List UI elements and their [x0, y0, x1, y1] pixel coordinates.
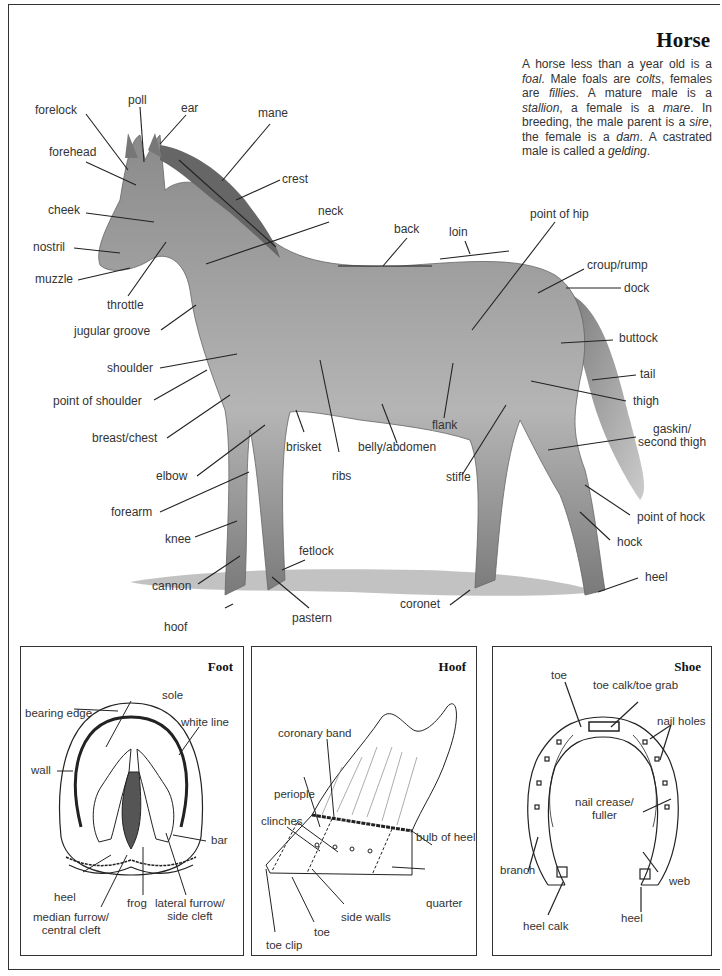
shoe-panel: Shoe to	[492, 646, 712, 956]
label-hock: hock	[617, 535, 642, 549]
label-dock: dock	[624, 281, 649, 295]
shoe-label-toe: toe	[551, 669, 567, 682]
label-breast-chest: breast/chest	[92, 431, 157, 445]
label-cannon: cannon	[152, 579, 191, 593]
label-forearm: forearm	[111, 505, 152, 519]
label-point-of-hip: point of hip	[530, 207, 589, 221]
label-thigh: thigh	[633, 394, 659, 408]
label-flank: flank	[432, 418, 457, 432]
label-forelock: forelock	[35, 103, 77, 117]
label-neck: neck	[318, 204, 343, 218]
foot-label-bearing-edge: bearing edge	[25, 707, 92, 720]
hoof-label-periople: periople	[274, 788, 315, 801]
label-nostril: nostril	[33, 240, 65, 254]
shoe-label-toe-calk: toe calk/toe grab	[593, 679, 678, 692]
label-brisket: brisket	[286, 440, 321, 454]
label-ribs: ribs	[332, 469, 351, 483]
label-jugular-groove: jugular groove	[74, 324, 150, 338]
horse-illustration	[0, 0, 722, 640]
label-gaskin: gaskin/ second thigh	[638, 423, 706, 449]
label-shoulder: shoulder	[107, 361, 153, 375]
hoof-label-coronary-band: coronary band	[278, 727, 352, 740]
label-loin: loin	[449, 225, 468, 239]
hoof-label-quarter: quarter	[426, 897, 462, 910]
label-crest: crest	[282, 172, 308, 186]
label-ear: ear	[181, 101, 198, 115]
hoof-panel: Hoof coronary band periople clinches	[251, 646, 477, 956]
label-tail: tail	[640, 367, 655, 381]
label-point-of-shoulder: point of shoulder	[53, 394, 142, 408]
label-coronet: coronet	[400, 597, 440, 611]
label-croup-rump: croup/rump	[587, 258, 648, 272]
foot-label-white-line: white line	[181, 716, 229, 729]
foot-label-sole: sole	[162, 689, 183, 702]
shoe-label-heel: heel	[621, 912, 643, 925]
label-poll: poll	[128, 93, 147, 107]
label-belly-abdomen: belly/abdomen	[358, 440, 436, 454]
label-cheek: cheek	[48, 203, 80, 217]
hoof-label-bulb-of-heel: bulb of heel	[416, 831, 475, 844]
label-fetlock: fetlock	[299, 544, 334, 558]
label-heel: heel	[645, 570, 668, 584]
shoe-label-web: web	[669, 875, 690, 888]
label-stifle: stifle	[446, 470, 471, 484]
label-forehead: forehead	[49, 145, 96, 159]
hoof-label-toe: toe	[314, 926, 330, 939]
foot-label-wall: wall	[31, 764, 51, 777]
foot-panel: Foot sole bearing edge white line wall b…	[20, 646, 244, 956]
label-hoof: hoof	[164, 620, 187, 634]
shoe-label-heel-calk: heel calk	[523, 920, 568, 933]
label-elbow: elbow	[156, 469, 187, 483]
shoe-label-nail-holes: nail holes	[657, 715, 706, 728]
label-mane: mane	[258, 106, 288, 120]
foot-label-heel: heel	[54, 891, 76, 904]
label-throttle: throttle	[107, 298, 144, 312]
shoe-label-nail-crease: nail crease/ fuller	[575, 796, 634, 822]
label-knee: knee	[165, 532, 191, 546]
label-buttock: buttock	[619, 331, 658, 345]
foot-label-frog: frog	[127, 897, 147, 910]
foot-label-bar: bar	[211, 834, 228, 847]
label-point-of-hock: point of hock	[637, 510, 705, 524]
hoof-label-side-walls: side walls	[341, 911, 391, 924]
hoof-label-clinches: clinches	[261, 815, 303, 828]
shoe-label-branch: branch	[500, 864, 535, 877]
foot-label-median-furrow: median furrow/ central cleft	[33, 911, 109, 937]
label-pastern: pastern	[292, 611, 332, 625]
label-muzzle: muzzle	[35, 272, 73, 286]
label-back: back	[394, 222, 419, 236]
hoof-label-toe-clip: toe clip	[266, 939, 302, 952]
foot-label-lateral-furrow: lateral furrow/ side cleft	[155, 897, 225, 923]
